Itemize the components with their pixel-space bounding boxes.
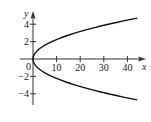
chart: 1020304042−2−4 x y 0: [0, 0, 151, 122]
y-tick-label: −2: [18, 71, 29, 82]
x-tick-label: 40: [122, 62, 132, 73]
x-axis-label: x: [141, 61, 147, 72]
y-axis-label: y: [23, 8, 29, 19]
y-tick-label: 4: [24, 19, 29, 30]
y-tick-label: 2: [24, 36, 29, 47]
x-tick-label: 10: [52, 62, 62, 73]
x-tick-label: 20: [75, 62, 85, 73]
x-tick-label: 30: [99, 62, 109, 73]
origin-label: 0: [26, 61, 31, 72]
y-tick-label: −4: [18, 88, 29, 99]
